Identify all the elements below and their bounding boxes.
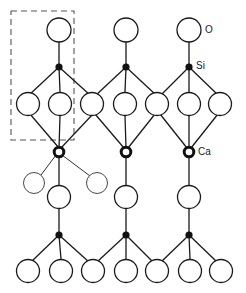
silicon-atom: [122, 231, 129, 238]
side-oxygen-atom: [87, 173, 108, 194]
oxygen-atom: [114, 93, 137, 116]
oxygen-atom: [114, 18, 138, 42]
silicon-atom: [55, 231, 62, 238]
calcium-atoms: [54, 147, 194, 157]
oxygen-label: O: [205, 25, 213, 35]
oxygen-atom: [50, 260, 73, 283]
silicon-label: Si: [196, 61, 205, 71]
silicon-atom: [122, 63, 129, 70]
bottom-bonds: [31, 235, 217, 262]
calcium-atom: [184, 147, 194, 157]
oxygen-atom: [49, 93, 72, 116]
calcium-atom: [121, 147, 131, 157]
oxygen-atom: [146, 93, 169, 116]
calcium-label: Ca: [198, 147, 211, 157]
oxygen-atom: [115, 260, 138, 283]
oxygen-atom: [17, 93, 40, 116]
oxygen-atom: [177, 18, 201, 42]
oxygen-atom: [17, 260, 40, 283]
oxygen-atom: [115, 186, 138, 209]
oxygen-atom: [178, 186, 201, 209]
oxygen-atom: [47, 18, 71, 42]
oxygen-atom: [81, 93, 104, 116]
oxygen-atom: [209, 93, 232, 116]
oxygen-atom: [179, 260, 202, 283]
oxygen-atom: [146, 260, 169, 283]
side-oxygen-atom: [24, 173, 45, 194]
calcium-atom: [54, 147, 64, 157]
oxygen-atom: [48, 186, 71, 209]
oxygen-atom: [210, 260, 233, 283]
oxygen-atom: [82, 260, 105, 283]
silicon-atom: [185, 231, 192, 238]
silicon-atom: [185, 63, 192, 70]
silicon-atom: [55, 63, 62, 70]
oxygen-atom: [178, 93, 201, 116]
